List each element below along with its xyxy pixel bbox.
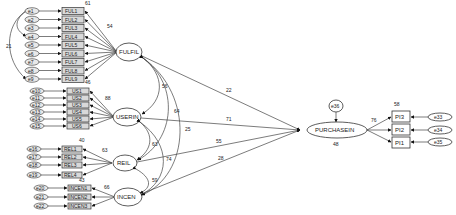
- svg-text:55: 55: [216, 138, 222, 144]
- svg-text:e20: e20: [36, 185, 45, 191]
- svg-text:e8: e8: [28, 68, 34, 74]
- svg-text:e16: e16: [29, 146, 38, 152]
- svg-text:PI2: PI2: [395, 127, 405, 133]
- rel-items: 40 e16 REL1 e17 REL2 e18 REL3 e19 REL4 6…: [27, 137, 112, 183]
- svg-text:e6: e6: [28, 51, 34, 57]
- svg-text:US6: US6: [72, 123, 82, 129]
- svg-text:e7: e7: [28, 59, 34, 65]
- svg-text:e13: e13: [32, 109, 41, 115]
- userin-items: e10 US1 e11 US2 e12 US3 e13 US4 e14 US5 …: [30, 88, 114, 129]
- svg-text:FUL2: FUL2: [65, 17, 77, 23]
- latent-label: FULFIL: [119, 49, 140, 55]
- svg-text:INCEN1: INCEN1: [69, 185, 88, 191]
- svg-text:PI1: PI1: [395, 140, 405, 146]
- latent-label: PURCHASEIN: [315, 127, 354, 133]
- latent-label: REIL: [117, 160, 131, 166]
- r2-label: 46: [85, 79, 91, 85]
- loading-label: 76: [371, 117, 377, 123]
- svg-text:71: 71: [226, 116, 232, 122]
- svg-text:e5: e5: [28, 42, 34, 48]
- svg-text:e22: e22: [36, 203, 45, 209]
- r2-label: 48: [333, 141, 339, 147]
- svg-text:US1: US1: [72, 88, 82, 94]
- svg-text:e36: e36: [331, 103, 340, 109]
- svg-text:FUL8: FUL8: [65, 68, 77, 74]
- svg-text:INCEN3: INCEN3: [69, 203, 88, 209]
- svg-text:US2: US2: [72, 95, 82, 101]
- fulfil-items: e1 FUL1 e2 FUL2 e3 FUL3 e4 FUL: [25, 8, 117, 83]
- correlation-arcs: 56 64 25 63 74 59: [136, 58, 191, 195]
- svg-text:e19: e19: [29, 172, 38, 178]
- svg-text:e4: e4: [28, 34, 34, 40]
- svg-text:e35: e35: [434, 139, 443, 145]
- svg-text:e1: e1: [28, 8, 34, 14]
- svg-text:e11: e11: [32, 95, 40, 101]
- svg-text:e21: e21: [36, 194, 45, 200]
- svg-text:64: 64: [174, 108, 180, 114]
- svg-text:e2: e2: [28, 17, 34, 23]
- r2-label: 40: [79, 137, 85, 143]
- r2-label: 43: [79, 177, 85, 183]
- svg-text:FUL6: FUL6: [65, 51, 77, 57]
- purchase-block: e36 PURCHASEIN 48 76 58 PI3 PI2 PI1 e33 …: [307, 100, 452, 148]
- svg-text:59: 59: [152, 177, 158, 183]
- incen-items: e20 INCEN1 e21 INCEN2 e22 INCEN3 66: [34, 184, 115, 209]
- loading-label: 66: [104, 184, 110, 190]
- svg-text:e33: e33: [434, 114, 443, 120]
- svg-text:e12: e12: [32, 102, 41, 108]
- svg-text:US4: US4: [72, 109, 82, 115]
- svg-text:FUL5: FUL5: [65, 42, 77, 48]
- svg-text:e10: e10: [32, 88, 41, 94]
- svg-text:FUL7: FUL7: [65, 59, 77, 65]
- svg-text:REL2: REL2: [64, 154, 77, 160]
- svg-text:REL4: REL4: [64, 172, 77, 178]
- svg-text:PI3: PI3: [395, 114, 405, 120]
- svg-text:e17: e17: [29, 154, 38, 160]
- svg-text:e34: e34: [434, 127, 443, 133]
- latent-label: INCEN: [117, 194, 136, 200]
- r2-label: 58: [394, 101, 400, 107]
- svg-text:e9: e9: [28, 76, 34, 82]
- svg-text:REL1: REL1: [64, 146, 77, 152]
- latent-label: USERIN: [116, 114, 139, 120]
- svg-text:FUL9: FUL9: [65, 76, 77, 82]
- svg-text:REL3: REL3: [64, 162, 77, 168]
- loading-label: 88: [105, 95, 111, 101]
- svg-text:US3: US3: [72, 102, 82, 108]
- loading-label: 54: [107, 23, 113, 29]
- svg-text:e15: e15: [32, 123, 41, 129]
- svg-text:63: 63: [152, 141, 158, 147]
- covariance-label: 21: [6, 43, 12, 49]
- svg-text:74: 74: [166, 156, 172, 162]
- r2-label: 61: [85, 0, 91, 6]
- svg-text:US5: US5: [72, 116, 82, 122]
- svg-text:FUL4: FUL4: [65, 34, 77, 40]
- loading-label: 63: [102, 147, 108, 153]
- svg-text:e14: e14: [32, 116, 41, 122]
- svg-text:FUL3: FUL3: [65, 25, 77, 31]
- svg-text:22: 22: [226, 87, 232, 93]
- svg-text:e3: e3: [28, 25, 34, 31]
- svg-text:25: 25: [185, 126, 191, 132]
- svg-text:28: 28: [218, 155, 224, 161]
- svg-text:FUL1: FUL1: [65, 8, 77, 14]
- sem-path-diagram: 21 61 46 54 e1 FUL1 e2 FUL2 e3 FUL3: [0, 0, 456, 215]
- svg-text:e18: e18: [29, 162, 38, 168]
- svg-text:INCEN2: INCEN2: [69, 194, 88, 200]
- error-covariance-arrow: [17, 11, 26, 36]
